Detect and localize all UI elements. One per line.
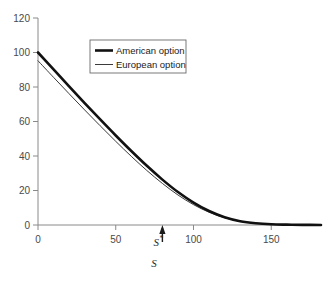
chart-legend: American option European option	[90, 40, 186, 73]
x-tick-label: 50	[110, 234, 122, 245]
y-tick-label: 80	[19, 82, 31, 93]
x-axis-title: S	[151, 257, 157, 269]
legend-label-european: European option	[116, 59, 186, 70]
y-tick-label: 0	[24, 220, 30, 231]
y-tick-label: 20	[19, 185, 31, 196]
y-tick-label: 60	[19, 116, 31, 127]
legend-label-american: American option	[116, 45, 185, 56]
x-tick-label: 0	[35, 234, 41, 245]
y-tick-label: 100	[13, 47, 30, 58]
chart-canvas: 020406080100120 050100150 S * S American…	[0, 0, 335, 283]
x-tick-label: 150	[263, 234, 280, 245]
x-tick-label: 100	[185, 234, 202, 245]
option-value-chart: 020406080100120 050100150 S * S American…	[0, 0, 335, 283]
y-tick-label: 120	[13, 13, 30, 24]
y-tick-label: 40	[19, 151, 31, 162]
critical-price-superscript: *	[159, 234, 163, 243]
